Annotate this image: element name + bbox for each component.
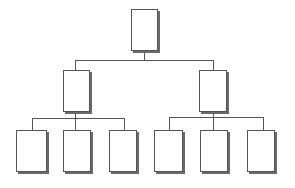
node-mid-right xyxy=(199,70,227,112)
node-leaf-6 xyxy=(247,130,275,172)
node-leaf-1 xyxy=(16,130,47,172)
connector-level2-left-bar xyxy=(32,118,125,119)
node-leaf-3 xyxy=(109,130,137,172)
node-leaf-5 xyxy=(200,130,228,172)
node-leaf-2 xyxy=(63,130,91,172)
connector-level1-bar xyxy=(75,60,214,61)
org-chart-diagram xyxy=(0,0,295,188)
node-mid-left xyxy=(63,70,90,112)
node-root xyxy=(131,9,158,51)
connector-level2-right-bar xyxy=(169,117,264,118)
node-leaf-4 xyxy=(154,130,183,172)
